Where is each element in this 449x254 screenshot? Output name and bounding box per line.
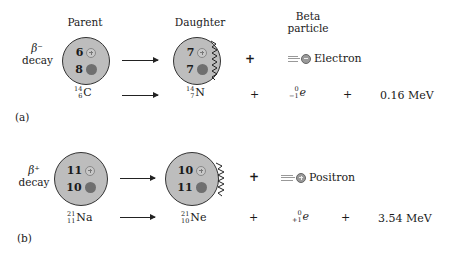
particle-symbol: e [300,86,307,99]
header-beta-particle: Beta particle [283,10,333,34]
proton-row: 6 [63,46,109,59]
proton-row: 11 [55,164,107,177]
proton-count: 6 [76,46,84,59]
decay-type-a: β⁻ decay [22,42,52,66]
particle-name: Positron [309,171,355,184]
neutron-icon [196,182,207,193]
plus-sign: + [341,211,350,224]
proton-icon [197,48,207,58]
panel-label-a: (a) [15,111,29,123]
header-parent: Parent [55,16,115,28]
beta-minus-symbol: β⁻ [22,42,52,54]
plus-sign: + [245,52,255,66]
atomic-number: 10 [181,218,189,225]
electron-icon [301,54,311,64]
motion-streak-icon [288,56,300,62]
header-beta-line1: Beta [283,10,333,22]
isotope-parent-b: 2111 Na [67,211,92,224]
isotope-daughter-a: 147 N [186,86,205,99]
neutron-count: 8 [75,63,83,76]
emission-wiggle-icon [213,162,227,198]
element-symbol: Ne [190,211,206,224]
isotope-particle-b: 0+1 e [292,210,309,223]
isotope-particle-a: 0−1 e [289,86,306,99]
atomic-number: 6 [74,93,82,100]
arrow-icon [120,217,155,218]
neutron-icon [86,64,97,75]
motion-streak-icon [281,175,295,181]
parent-nucleus-b: 11 10 [54,152,108,206]
beta-plus-symbol: β⁺ [17,164,51,176]
element-symbol: N [195,86,205,99]
proton-icon [85,166,95,176]
neutron-row: 11 [166,181,218,194]
header-daughter: Daughter [165,16,235,28]
daughter-nucleus-b: 10 11 [165,152,219,206]
positron-icon [296,173,306,183]
decay-type-b: β⁺ decay [17,164,51,188]
element-symbol: C [83,86,91,99]
panel-label-b: (b) [17,232,32,244]
atomic-number: 7 [186,93,194,100]
plus-sign: + [250,88,259,101]
particle-symbol: e [303,210,310,223]
emission-wiggle-icon [207,40,219,82]
arrow-icon [122,60,158,61]
isotope-parent-a: 146 C [74,86,92,99]
arrow-icon [122,95,158,96]
decay-word: decay [17,176,51,188]
proton-count: 10 [178,164,193,177]
atomic-number: 11 [67,218,75,225]
plus-sign: + [249,170,259,184]
atomic-number: +1 [292,217,302,224]
energy-value: 0.16 MeV [380,89,434,102]
particle-name: Electron [314,52,362,65]
proton-count: 7 [187,46,195,59]
proton-row: 10 [166,164,218,177]
proton-icon [86,48,96,58]
atomic-number: −1 [289,93,299,100]
neutron-count: 11 [177,181,192,194]
neutron-icon [85,182,96,193]
element-symbol: Na [76,211,92,224]
particle-positron: Positron [281,171,355,184]
neutron-count: 7 [186,63,194,76]
neutron-count: 10 [66,181,81,194]
neutron-row: 10 [55,181,107,194]
arrow-icon [120,178,155,179]
proton-count: 11 [67,164,82,177]
particle-electron: Electron [288,52,362,65]
decay-word: decay [22,54,52,66]
isotope-daughter-b: 2110 Ne [181,211,206,224]
plus-sign: + [343,88,352,101]
energy-value: 3.54 MeV [378,212,432,225]
plus-sign: + [249,211,258,224]
proton-icon [196,166,206,176]
neutron-row: 8 [63,63,109,76]
parent-nucleus-a: 6 8 [62,37,110,85]
header-beta-line2: particle [283,22,333,34]
